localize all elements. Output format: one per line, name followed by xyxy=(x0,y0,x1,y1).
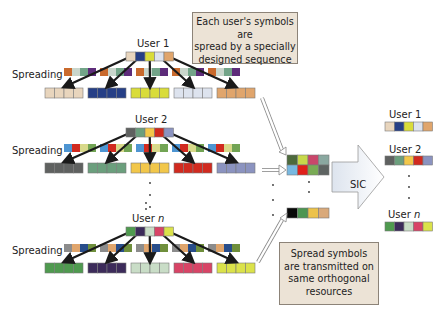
resource-cell xyxy=(319,208,330,218)
output-symbol xyxy=(404,222,414,231)
user-symbol xyxy=(136,128,146,137)
spread-symbol-cell xyxy=(88,263,98,273)
ellipsis-dot xyxy=(308,191,310,193)
spreading-chip xyxy=(188,144,196,152)
user-2-label: User 2 xyxy=(135,114,167,126)
resource-cell xyxy=(287,208,298,218)
spread-symbol-cell xyxy=(217,88,227,98)
spreading-chip xyxy=(80,68,88,76)
spread-symbol-cell xyxy=(203,88,213,98)
output-symbol xyxy=(385,122,395,131)
output-symbol xyxy=(385,222,395,231)
output-symbol xyxy=(395,222,405,231)
spread-symbol-cell xyxy=(184,263,194,273)
spread-symbol-cell xyxy=(236,88,246,98)
spreading-chip xyxy=(152,144,160,152)
spreading-chip xyxy=(72,244,80,252)
spread-symbol-cell xyxy=(141,88,151,98)
spread-symbol-cell xyxy=(45,88,55,98)
resource-cell xyxy=(287,155,298,165)
spreading-chip xyxy=(224,144,232,152)
spread-symbol-cell xyxy=(74,88,84,98)
callout-line: Each user's symbols are xyxy=(193,16,297,41)
spread-symbol-cell xyxy=(64,263,74,273)
user-symbol xyxy=(155,227,165,236)
spreading-chip xyxy=(72,144,80,152)
spreading-chip xyxy=(180,68,188,76)
hollow-arrow-user1-inner xyxy=(262,98,282,150)
spread-symbol-cell xyxy=(45,163,55,173)
callout-line: designed sequence xyxy=(193,54,297,67)
output-symbol xyxy=(395,122,405,131)
resource-cell xyxy=(319,155,330,165)
spread-symbol-cell xyxy=(74,263,84,273)
resource-cell xyxy=(298,155,309,165)
spread-symbol-cell xyxy=(74,163,84,173)
callout-line: same orthogonal xyxy=(280,273,378,286)
spreading-chip xyxy=(64,244,72,252)
resource-cell xyxy=(308,155,319,165)
spread-symbol-cell xyxy=(150,163,160,173)
spread-symbol-cell xyxy=(107,163,117,173)
spreading-chip xyxy=(152,68,160,76)
ellipsis-dot xyxy=(272,214,274,216)
ellipsis-dot xyxy=(149,206,151,208)
ellipsis-dot xyxy=(408,186,410,188)
user-symbol xyxy=(126,52,136,61)
user-symbol xyxy=(155,52,165,61)
callout-line: are transmitted on xyxy=(280,261,378,274)
spread-symbol-cell xyxy=(98,88,108,98)
spread-symbol-cell xyxy=(88,163,98,173)
user-symbol xyxy=(145,227,155,236)
user-symbol xyxy=(145,52,155,61)
ellipsis-dot xyxy=(149,182,151,184)
spreading-chip xyxy=(216,144,224,152)
spreading-chip xyxy=(232,68,240,76)
resource-cell xyxy=(298,208,309,218)
spreading-chip xyxy=(136,68,144,76)
user-groups xyxy=(45,52,255,273)
user-symbol xyxy=(136,227,146,236)
spread-symbol-cell xyxy=(107,88,117,98)
output-symbol xyxy=(423,156,433,165)
user-n-label: User n xyxy=(132,213,164,225)
output-symbol xyxy=(414,222,424,231)
spread-symbol-cell xyxy=(227,88,237,98)
resource-block xyxy=(258,98,329,262)
spread-symbol-cell xyxy=(246,263,256,273)
spreading-chip xyxy=(72,68,80,76)
ellipsis-dot xyxy=(308,181,310,183)
spread-symbol-cell xyxy=(131,163,141,173)
output-symbol xyxy=(404,156,414,165)
spread-symbol-cell xyxy=(98,263,108,273)
callout-line: Spread symbols xyxy=(280,248,378,261)
output-user-2-label: User 2 xyxy=(389,144,421,156)
spread-symbol-cell xyxy=(55,88,65,98)
output-symbol xyxy=(414,156,424,165)
user-symbol xyxy=(145,128,155,137)
spread-symbol-cell xyxy=(174,263,184,273)
spreading-label-2: Spreading xyxy=(12,145,63,157)
spreading-chip xyxy=(108,144,116,152)
spread-symbol-cell xyxy=(64,88,74,98)
spreading-chip xyxy=(188,244,196,252)
spreading-chip xyxy=(224,244,232,252)
spread-symbol-cell xyxy=(184,88,194,98)
spreading-chip xyxy=(136,244,144,252)
spreading-chip xyxy=(232,144,240,152)
output-symbol xyxy=(385,156,395,165)
user-1-label: User 1 xyxy=(137,38,169,50)
spread-symbol-cell xyxy=(88,88,98,98)
spread-symbol-cell xyxy=(184,163,194,173)
spread-symbol-cell xyxy=(117,163,127,173)
spread-symbol-cell xyxy=(150,263,160,273)
spreading-chip xyxy=(152,244,160,252)
spread-symbol-cell xyxy=(160,263,170,273)
ellipsis-dot xyxy=(408,175,410,177)
spread-symbol-cell xyxy=(217,163,227,173)
spread-symbol-cell xyxy=(131,88,141,98)
resource-cell xyxy=(308,208,319,218)
user-symbol xyxy=(164,227,174,236)
spread-symbol-cell xyxy=(55,263,65,273)
output-user-1-label: User 1 xyxy=(389,109,421,121)
